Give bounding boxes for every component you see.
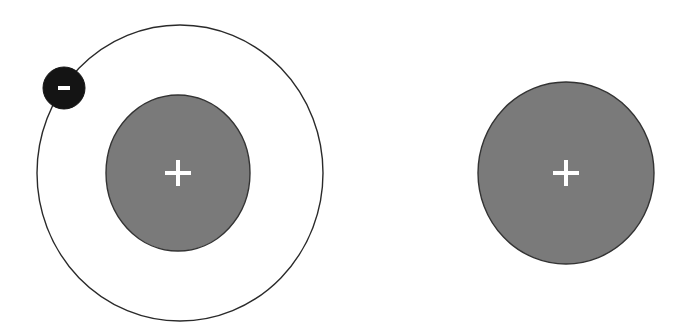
atom-ion-diagram xyxy=(0,0,676,335)
minus-sign-icon xyxy=(58,86,70,90)
ion-group xyxy=(478,82,654,264)
atom-group xyxy=(37,25,323,321)
